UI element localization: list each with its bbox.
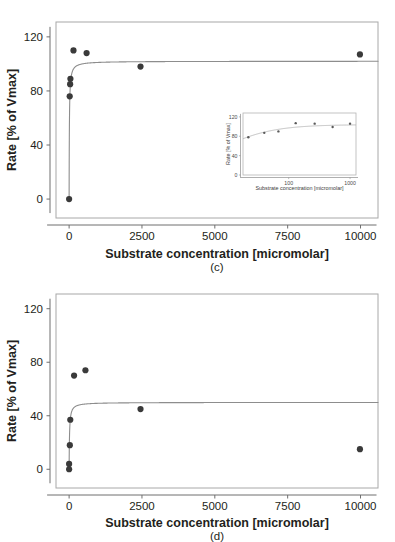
inset-data-point <box>263 132 265 134</box>
data-point <box>67 76 73 82</box>
data-point <box>357 446 363 452</box>
data-point <box>357 51 363 57</box>
inset-y-tick-label: 0 <box>235 172 238 178</box>
data-point <box>137 64 143 70</box>
y-tick-label: 40 <box>30 139 43 151</box>
x-axis-title: Substrate concentration [micromolar] <box>105 516 329 530</box>
y-tick-label: 0 <box>37 463 43 475</box>
data-point <box>71 373 77 379</box>
y-tick-label: 40 <box>30 410 43 422</box>
data-point <box>82 367 88 373</box>
inset-x-axis-title: Substrate concentration [micromolar] <box>255 185 344 191</box>
panel-caption: (d) <box>210 530 224 542</box>
y-tick-label: 120 <box>24 303 43 315</box>
data-point <box>67 417 73 423</box>
plot-frame <box>56 294 378 488</box>
y-tick-label: 0 <box>37 193 43 205</box>
x-tick-label: 0 <box>66 230 72 242</box>
inset-data-point <box>349 122 351 124</box>
y-axis-title: Rate [% of Vmax] <box>5 340 19 442</box>
data-point <box>84 50 90 56</box>
y-tick-label: 80 <box>30 85 43 97</box>
data-point <box>66 196 72 202</box>
x-tick-label: 5000 <box>202 230 228 242</box>
x-tick-label: 10000 <box>345 230 377 242</box>
fit-curve <box>69 402 378 469</box>
inset-chart: 040801201001000Substrate concentration [… <box>223 104 366 200</box>
inset-x-tick-label: 1000 <box>344 180 356 186</box>
inset-y-tick-label: 120 <box>229 114 238 120</box>
x-tick-label: 2500 <box>129 500 155 512</box>
y-axis-title: Rate [% of Vmax] <box>5 69 19 171</box>
x-tick-label: 10000 <box>345 500 377 512</box>
x-tick-label: 0 <box>66 500 72 512</box>
y-tick-label: 80 <box>30 356 43 368</box>
x-tick-label: 5000 <box>202 500 228 512</box>
panel-d-plot: 04080120025005000750010000Substrate conc… <box>0 274 395 542</box>
data-point <box>67 93 73 99</box>
panel-c-plot: 04080120025005000750010000Substrate conc… <box>0 0 395 274</box>
data-point <box>66 461 72 467</box>
data-point <box>137 406 143 412</box>
data-point <box>70 47 76 53</box>
inset-data-point <box>277 130 279 132</box>
y-tick-label: 120 <box>24 31 43 43</box>
panel-caption: (c) <box>210 261 224 273</box>
inset-y-axis-title: Rate [% of Vmax] <box>225 123 231 165</box>
chart-panel-d: 04080120025005000750010000Substrate conc… <box>0 274 395 542</box>
x-tick-label: 7500 <box>275 230 301 242</box>
inset-y-tick-label: 80 <box>232 133 238 139</box>
inset-data-point <box>331 126 333 128</box>
data-point <box>67 81 73 87</box>
x-tick-label: 2500 <box>129 230 155 242</box>
data-point <box>66 466 72 472</box>
x-axis-title: Substrate concentration [micromolar] <box>105 247 329 261</box>
inset-y-tick-label: 40 <box>232 153 238 159</box>
figure-container: 04080120025005000750010000Substrate conc… <box>0 0 395 542</box>
inset-data-point <box>247 136 249 138</box>
inset-data-point <box>313 122 315 124</box>
inset-data-point <box>294 122 296 124</box>
data-point <box>67 442 73 448</box>
chart-panel-c: 04080120025005000750010000Substrate conc… <box>0 0 395 274</box>
inset-frame <box>243 113 356 175</box>
x-tick-label: 7500 <box>275 500 301 512</box>
